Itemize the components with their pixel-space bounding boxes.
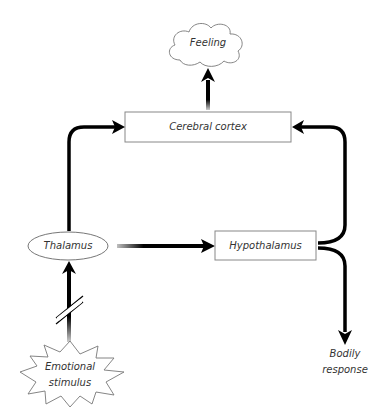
arrow-cortex-to-feeling xyxy=(201,68,215,110)
arrow-thalamus-to-hypothalamus xyxy=(117,239,215,253)
emotional-stimulus-label-line1: Emotional xyxy=(30,361,110,373)
arrow-hypothalamus-to-bodily xyxy=(318,248,345,332)
cerebral-cortex-label: Cerebral cortex xyxy=(125,121,291,133)
arrow-thalamus-to-cortex xyxy=(69,127,116,231)
arrow-hypothalamus-to-cortex xyxy=(301,127,345,243)
arrow-stimulus-to-thalamus xyxy=(56,261,83,342)
bodily-response-label-line1: Bodily xyxy=(315,348,375,360)
thalamus-label: Thalamus xyxy=(28,240,108,252)
bodily-response-label-line2: response xyxy=(315,364,375,376)
hypothalamus-label: Hypothalamus xyxy=(215,240,316,252)
emotional-stimulus-starburst xyxy=(20,341,124,407)
emotional-stimulus-label-line2: stimulus xyxy=(30,377,110,389)
feeling-label: Feeling xyxy=(180,37,236,49)
